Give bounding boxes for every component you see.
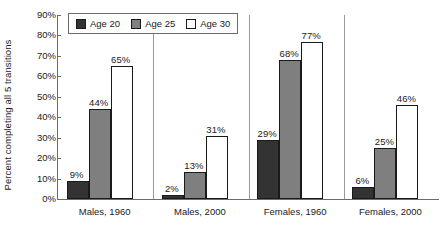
- bar-age-20-3: [352, 187, 374, 199]
- x-axis-category-label: Males, 1960: [57, 206, 152, 218]
- bar-value-label: 68%: [272, 48, 306, 59]
- bar-age-20-2: [257, 140, 279, 199]
- y-axis-tick-label: 60%: [18, 71, 56, 81]
- bar-age-25-0: [89, 109, 111, 199]
- bar-value-label: 77%: [294, 30, 328, 41]
- y-axis: 0%10%20%30%40%50%60%70%80%90%: [14, 0, 56, 230]
- x-axis-category-label: Females, 1960: [248, 206, 343, 218]
- bar-value-label: 9%: [60, 169, 94, 180]
- y-axis-tick-label: 80%: [18, 30, 56, 40]
- y-axis-tick-label: 30%: [18, 133, 56, 143]
- bar-value-label: 46%: [389, 93, 423, 104]
- y-axis-tick-label: 70%: [18, 51, 56, 61]
- y-axis-tick-label: 40%: [18, 112, 56, 122]
- bar-chart: Percent completing all 5 transitions 0%1…: [0, 0, 440, 230]
- bar-value-label: 44%: [82, 97, 116, 108]
- x-axis-line: [57, 199, 439, 200]
- legend-item-age-25[interactable]: Age 25: [131, 18, 175, 29]
- bar-value-label: 13%: [177, 160, 211, 171]
- bar-value-label: 31%: [199, 124, 233, 135]
- group-separator: [344, 15, 345, 199]
- bar-age-25-3: [374, 148, 396, 199]
- legend-label: Age 30: [200, 18, 230, 29]
- legend-item-age-20[interactable]: Age 20: [76, 18, 120, 29]
- x-axis-category-label: Males, 2000: [152, 206, 247, 218]
- legend-item-age-30[interactable]: Age 30: [186, 18, 230, 29]
- y-axis-tick-label: 10%: [18, 174, 56, 184]
- legend-swatch-icon: [131, 19, 141, 29]
- x-axis-category-label: Females, 2000: [343, 206, 438, 218]
- y-axis-tick-label: 0%: [18, 194, 56, 204]
- bar-age-20-0: [67, 181, 89, 199]
- legend-label: Age 25: [145, 18, 175, 29]
- legend-label: Age 20: [90, 18, 120, 29]
- legend-swatch-icon: [76, 19, 86, 29]
- bar-value-label: 29%: [250, 128, 284, 139]
- bar-value-label: 6%: [345, 175, 379, 186]
- bar-age-30-0: [111, 66, 133, 199]
- bar-age-20-1: [162, 195, 184, 199]
- bar-value-label: 25%: [367, 136, 401, 147]
- y-axis-tick-label: 90%: [18, 10, 56, 20]
- legend-swatch-icon: [186, 19, 196, 29]
- group-separator: [153, 15, 154, 199]
- legend: Age 20Age 25Age 30: [68, 13, 238, 34]
- y-axis-tick-label: 20%: [18, 153, 56, 163]
- group-separator: [249, 15, 250, 199]
- bar-age-30-2: [301, 42, 323, 199]
- y-axis-tick-label: 50%: [18, 92, 56, 102]
- bar-value-label: 2%: [155, 183, 189, 194]
- bar-value-label: 65%: [104, 54, 138, 65]
- bar-age-30-3: [396, 105, 418, 199]
